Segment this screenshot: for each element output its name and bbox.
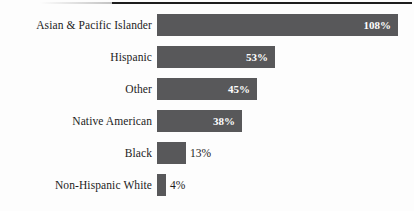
bar-track: 53% <box>157 46 275 68</box>
bar-value-label: 53% <box>246 46 268 68</box>
bar[interactable]: 108% <box>157 14 398 36</box>
bar-row: Native American 38% <box>0 110 414 132</box>
bar-row: Black 13% <box>0 142 414 164</box>
category-label: Black <box>0 142 152 164</box>
bar-track: 4% <box>157 174 166 196</box>
category-label: Other <box>0 78 152 100</box>
bar[interactable]: 53% <box>157 46 275 68</box>
bar-track: 45% <box>157 78 257 100</box>
bar[interactable]: 13% <box>157 142 186 164</box>
bar-track: 38% <box>157 110 242 132</box>
bar-track: 108% <box>157 14 398 36</box>
bar[interactable]: 4% <box>157 174 166 196</box>
category-label: Native American <box>0 110 152 132</box>
bar-value-label: 13% <box>190 142 211 164</box>
top-border-rule <box>112 2 412 4</box>
category-label: Hispanic <box>0 46 152 68</box>
bar-track: 13% <box>157 142 186 164</box>
bar-value-label: 38% <box>213 110 235 132</box>
bar[interactable]: 45% <box>157 78 257 100</box>
plot-area: Asian & Pacific Islander 108% Hispanic 5… <box>0 12 414 211</box>
bar-row: Hispanic 53% <box>0 46 414 68</box>
bar-row: Other 45% <box>0 78 414 100</box>
bar-value-label: 108% <box>364 14 392 36</box>
bar-row: Asian & Pacific Islander 108% <box>0 14 414 36</box>
bar-value-label: 4% <box>170 174 185 196</box>
bar-value-label: 45% <box>228 78 250 100</box>
category-label: Asian & Pacific Islander <box>0 14 152 36</box>
top-rule-fade <box>40 2 114 4</box>
bar[interactable]: 38% <box>157 110 242 132</box>
horizontal-bar-chart: Asian & Pacific Islander 108% Hispanic 5… <box>0 0 414 211</box>
category-label: Non-Hispanic White <box>0 174 152 196</box>
bar-row: Non-Hispanic White 4% <box>0 174 414 196</box>
